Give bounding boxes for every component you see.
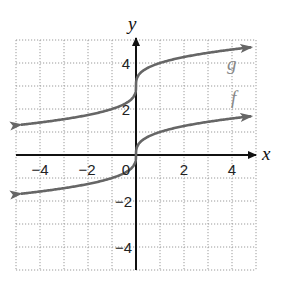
x-tick-label: 4 <box>228 161 236 178</box>
graph: x y g f −4 −2 0 2 4 4 2 −2 −4 <box>0 0 287 285</box>
x-tick-label: −4 <box>31 161 48 178</box>
y-tick-label: −2 <box>115 193 132 210</box>
curve-f-label: f <box>231 87 239 108</box>
x-axis-label: x <box>261 143 271 164</box>
y-tick-label: 4 <box>122 55 130 72</box>
x-tick-label: 2 <box>180 161 188 178</box>
y-tick-label: −4 <box>115 239 132 256</box>
x-tick-label: −2 <box>78 161 95 178</box>
curve-g-label: g <box>227 53 237 74</box>
y-axis-label: y <box>126 13 137 34</box>
x-tick-label: 0 <box>122 161 130 178</box>
y-tick-label: 2 <box>122 101 130 118</box>
